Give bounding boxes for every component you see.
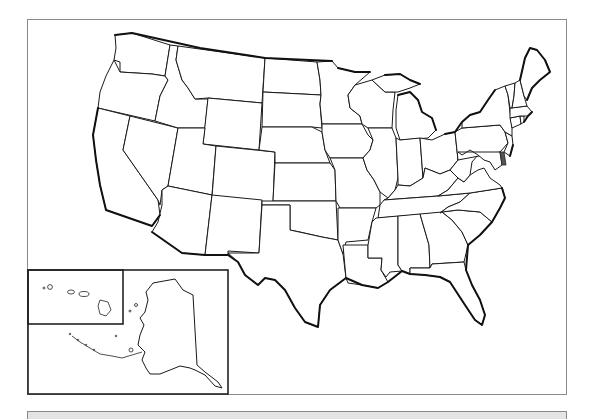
state-indiana[interactable] [396, 138, 423, 186]
state-new-mexico[interactable] [205, 195, 262, 255]
state-florida[interactable] [410, 262, 485, 325]
state-kansas[interactable] [273, 163, 336, 201]
state-maine[interactable] [520, 48, 550, 100]
state-colorado[interactable] [212, 146, 275, 203]
hawaii[interactable] [43, 285, 111, 316]
state-north-dakota[interactable] [263, 58, 321, 95]
island-kauai [48, 285, 53, 290]
state-south-dakota[interactable] [262, 92, 322, 128]
island-oahu [68, 290, 75, 294]
hawaii-inset-frame [28, 270, 123, 324]
island-niihau [43, 287, 45, 289]
aleutian-islands [72, 336, 142, 358]
insets [28, 270, 228, 394]
alaska-inset-frame [28, 270, 228, 394]
state-wyoming[interactable] [203, 98, 262, 150]
state-alaska[interactable] [138, 279, 222, 388]
state-iowa[interactable] [322, 124, 373, 158]
island-hawaii [98, 300, 111, 316]
island-maui-group [79, 292, 89, 297]
